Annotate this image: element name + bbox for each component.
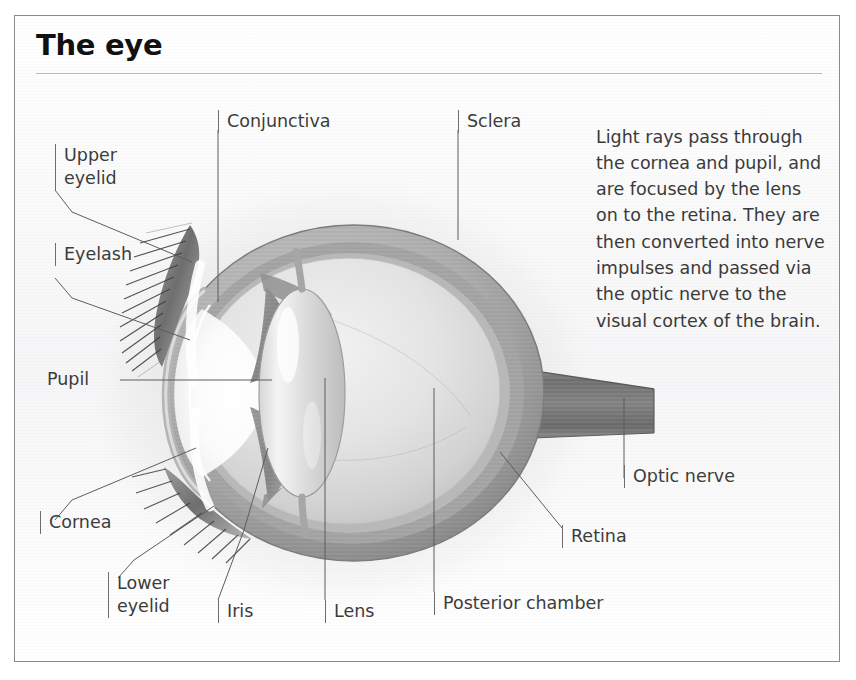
label-posterior-chamber: Posterior chamber: [434, 592, 603, 615]
label-pupil: Pupil: [47, 368, 89, 391]
label-cornea: Cornea: [40, 511, 111, 534]
label-upper-eyelid: Upper eyelid: [55, 144, 117, 190]
label-optic-nerve: Optic nerve: [624, 465, 735, 488]
label-retina: Retina: [562, 525, 627, 548]
label-conjunctiva: Conjunctiva: [218, 110, 331, 133]
label-eyelash: Eyelash: [55, 243, 132, 266]
label-sclera: Sclera: [458, 110, 521, 133]
eye-illustration: [14, 15, 840, 662]
label-lens: Lens: [325, 600, 374, 623]
page-root: The eye Light rays pass through the corn…: [0, 0, 856, 680]
label-lower-eyelid: Lower eyelid: [108, 572, 170, 618]
label-iris: Iris: [218, 600, 253, 623]
